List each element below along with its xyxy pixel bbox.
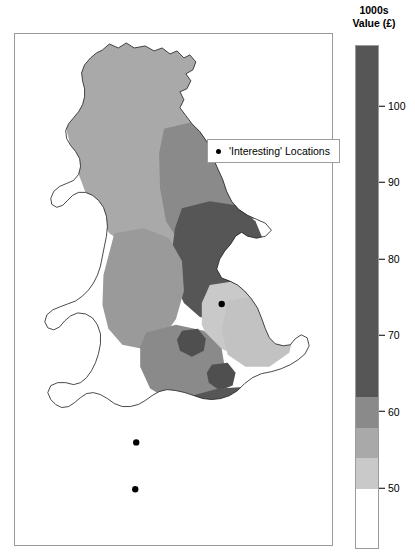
dot-marker-icon [216, 149, 221, 154]
tick-mark-icon [379, 106, 385, 107]
colorbar-tick-80: 80 [379, 254, 400, 265]
tick-label: 60 [388, 406, 400, 417]
colorbar-band-50-54 [356, 458, 378, 489]
map-panel[interactable] [14, 33, 333, 546]
colorbar-title-line1: 1000s [340, 4, 408, 17]
colorbar-tick-90: 90 [379, 177, 400, 188]
tick-label: 90 [388, 177, 400, 188]
uk-contour-map[interactable] [15, 34, 332, 545]
tick-label: 70 [388, 330, 400, 341]
tick-label: 50 [388, 483, 400, 494]
colorbar-band-42-50 [356, 489, 378, 549]
tick-mark-icon [379, 335, 385, 336]
colorbar-tick-100: 100 [379, 101, 406, 112]
tick-label: 80 [388, 254, 400, 265]
band-wales-light [112, 405, 150, 465]
colorbar-tick-60: 60 [379, 406, 400, 417]
colorbar-title-line2: Value (£) [340, 17, 408, 30]
colorbar-band-58-62 [356, 397, 378, 428]
tick-mark-icon [379, 182, 385, 183]
colorbar-band-54-58 [356, 428, 378, 459]
point-the-wash[interactable] [219, 301, 225, 307]
map-contour-fills [15, 34, 332, 545]
point-legend-label: 'Interesting' Locations [229, 146, 330, 157]
tick-mark-icon [379, 411, 385, 412]
colorbar-band-62-108 [356, 46, 378, 397]
colorbar-legend[interactable]: 1000s Value (£) 1009080706050 [340, 4, 415, 558]
tick-label: 100 [388, 101, 406, 112]
point-south-wales[interactable] [133, 439, 139, 445]
colorbar-gradient[interactable] [355, 45, 379, 549]
tick-mark-icon [379, 487, 385, 488]
colorbar-title: 1000s Value (£) [340, 4, 408, 30]
band-south-east-high [156, 387, 325, 491]
band-east-anglia-light [222, 295, 296, 367]
tick-mark-icon [379, 258, 385, 259]
point-devon[interactable] [132, 486, 138, 492]
band-south-east-mid [140, 393, 176, 459]
point-legend-box[interactable]: 'Interesting' Locations [207, 139, 340, 163]
colorbar-tick-70: 70 [379, 330, 400, 341]
colorbar-tick-50: 50 [379, 483, 400, 494]
